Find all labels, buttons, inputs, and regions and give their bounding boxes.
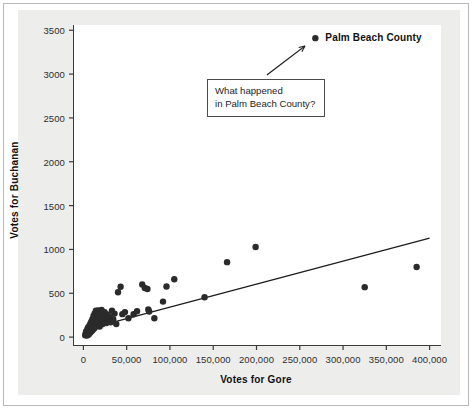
x-tick-label: 200,000 xyxy=(239,354,274,365)
y-tick-label: 0 xyxy=(35,332,65,343)
annotation-line-2: in Palm Beach County? xyxy=(215,98,317,111)
x-tick-label: 150,000 xyxy=(196,354,231,365)
y-tick-label: 1500 xyxy=(35,200,65,211)
x-tick-label: 400,000 xyxy=(412,354,447,365)
x-tick-label: 300,000 xyxy=(326,354,361,365)
y-tick-label: 500 xyxy=(35,288,65,299)
x-tick-label: 250,000 xyxy=(282,354,317,365)
plot-area xyxy=(73,25,441,346)
palm-beach-county-label: Palm Beach County xyxy=(325,32,421,43)
y-tick-label: 3500 xyxy=(35,25,65,36)
y-tick-label: 1000 xyxy=(35,244,65,255)
y-axis-title: Votes for Buchanan xyxy=(9,141,20,238)
y-tick-label: 2500 xyxy=(35,112,65,123)
x-tick-label: 0 xyxy=(81,354,86,365)
annotation-line-1: What happened xyxy=(215,85,317,98)
x-tick-label: 350,000 xyxy=(369,354,404,365)
y-tick-label: 2000 xyxy=(35,156,65,167)
x-tick-label: 50,000 xyxy=(112,354,142,365)
x-tick-label: 100,000 xyxy=(152,354,187,365)
x-axis-title: Votes for Gore xyxy=(220,374,292,385)
annotation-callout-box: What happened in Palm Beach County? xyxy=(207,79,325,117)
figure-page: 0500100015002000250030003500050,000100,0… xyxy=(0,0,474,411)
y-tick-label: 3000 xyxy=(35,69,65,80)
